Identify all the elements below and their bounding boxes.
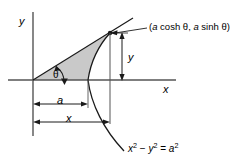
hyperbolic-sector-figure: y x θ (a cosh θ, a sinh θ) y a x x2 − y2… [0, 0, 240, 166]
point-label-cosh: cosh [157, 21, 182, 32]
x-dimension-label: x [66, 113, 72, 124]
a-dimension-arrowhead-left [33, 101, 40, 106]
y-axis-label: y [19, 16, 25, 27]
a-dimension-label: a [57, 95, 63, 106]
y-dimension-label: y [128, 52, 134, 63]
curve-equation-label: x2 − y2 = a2 [128, 142, 178, 154]
point-label-close-paren: ) [227, 21, 230, 32]
equation-a-exponent: 2 [174, 141, 178, 150]
theta-angle-label: θ [53, 70, 59, 80]
equation-equals: = [157, 143, 168, 154]
x-dimension-arrowhead-left [33, 119, 40, 124]
point-label-sinh: sinh [199, 21, 222, 32]
theta-arc-arrowhead-bottom [61, 79, 68, 85]
point-coordinate-label: (a cosh θ, a sinh θ) [149, 22, 230, 32]
x-dimension-arrowhead-right [103, 119, 110, 124]
a-dimension-arrowhead-right [81, 101, 88, 106]
x-axis-label: x [163, 84, 169, 95]
equation-minus: − [137, 143, 148, 154]
point-label-leader-line [115, 28, 147, 33]
